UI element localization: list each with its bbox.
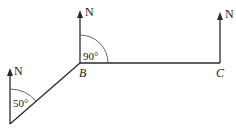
- north-arrow-c: N: [217, 7, 234, 63]
- north-label-a: N: [14, 64, 23, 78]
- angle-label-a: 50°: [13, 97, 28, 109]
- arrowhead-icon: [217, 12, 223, 20]
- bearing-diagram: N N N 90° 50° B C: [0, 0, 236, 129]
- arrowhead-icon: [7, 68, 13, 76]
- point-label-b: B: [79, 66, 87, 80]
- north-label-c: N: [225, 7, 234, 21]
- point-label-c: C: [216, 66, 225, 80]
- north-label-b: N: [85, 5, 94, 19]
- arrowhead-icon: [77, 10, 83, 18]
- angle-label-b: 90°: [83, 50, 98, 62]
